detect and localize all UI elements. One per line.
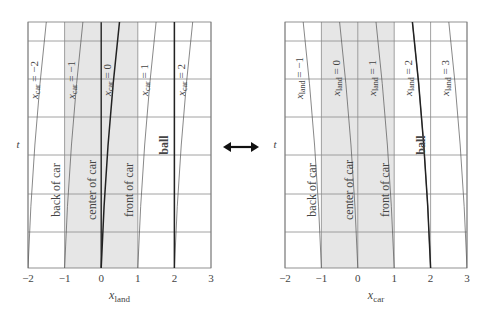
x-tick-label: −1 — [59, 272, 71, 284]
front-of-car-label: front of car — [122, 163, 136, 217]
worldline — [449, 22, 467, 268]
worldline-label: xcar = 0 — [101, 64, 115, 97]
x-tick-label: −2 — [22, 272, 34, 284]
worldline-label: xland = 2 — [402, 60, 416, 97]
x-axis-label: xcar — [367, 288, 384, 304]
center-of-car-label: center of car — [342, 160, 356, 220]
ball-label: ball — [414, 135, 428, 155]
worldline-label: xland = 3 — [439, 60, 453, 97]
worldline — [138, 22, 156, 268]
car-frame-plot: xland = −1xland = 0xland = 1xland = 2xla… — [273, 22, 470, 304]
back-of-car-label: back of car — [49, 163, 63, 216]
x-tick-label: 3 — [208, 272, 214, 284]
y-axis-label: t — [273, 138, 277, 150]
x-tick-label: 0 — [98, 272, 104, 284]
x-tick-label: 2 — [172, 272, 178, 284]
worldline-label: xcar = −2 — [28, 61, 42, 100]
x-tick-label: 2 — [428, 272, 434, 284]
x-axis-label: xland — [108, 288, 130, 304]
x-tick-label: 3 — [464, 272, 470, 284]
worldline — [303, 22, 321, 268]
ball-label: ball — [157, 135, 171, 155]
figure: xcar = −2xcar = −1xcar = 0xcar = 1xcar =… — [0, 0, 485, 313]
y-axis-label: t — [16, 138, 20, 150]
x-tick-label: −2 — [279, 272, 291, 284]
x-tick-label: 1 — [391, 272, 397, 284]
x-tick-label: 0 — [355, 272, 361, 284]
worldline — [174, 22, 192, 268]
x-tick-label: −1 — [316, 272, 328, 284]
land-frame-plot: xcar = −2xcar = −1xcar = 0xcar = 1xcar =… — [16, 22, 214, 304]
worldline-label: xland = −1 — [293, 57, 307, 100]
back-of-car-label: back of car — [305, 163, 319, 216]
worldline-label: xcar = −1 — [65, 61, 79, 100]
double-arrow-icon — [223, 142, 259, 152]
worldline-label: xland = 0 — [330, 60, 344, 97]
center-of-car-label: center of car — [85, 160, 99, 220]
worldline-label: xcar = 1 — [138, 64, 152, 97]
x-tick-label: 1 — [135, 272, 141, 284]
worldline-label: xcar = 2 — [175, 64, 189, 97]
front-of-car-label: front of car — [378, 163, 392, 217]
worldline — [28, 22, 46, 268]
